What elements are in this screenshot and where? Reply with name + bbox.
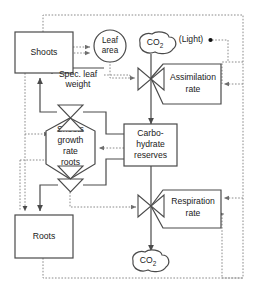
node-reserves-label-line3: reserves [134,150,167,160]
info-link-bus-to-assimilation [222,62,243,84]
node-roots[interactable]: Roots [15,215,73,258]
node-roots-label: Roots [33,231,55,241]
node-assimilation-label-line2: rate [186,84,201,94]
node-growth-label-line3: rate [63,146,78,156]
node-respiration-label-line2: rate [186,208,201,218]
info-link-lower-valve-to-respiration [70,192,136,207]
node-light-label: (Light) [179,34,203,44]
node-light[interactable]: (Light) [179,34,203,44]
diagram-canvas: Shoots Roots Leaf area CO2 CO2 (Light) S… [0,0,256,290]
node-splw-label-line2: weight [65,79,91,89]
node-spec-leaf-weight[interactable]: Spec. leaf weight [59,69,98,89]
node-splw-label-line1: Spec. leaf [59,69,98,79]
node-respiration-label-line1: Respiration [171,196,215,206]
node-assimilation-label-line1: Assimilation [170,72,216,82]
roots-growth-valve-bottom-icon[interactable] [58,166,83,192]
node-co2-source[interactable]: CO2 [140,32,176,54]
node-reserves-label-line1: Carbo- [137,128,163,138]
node-reserves-label-line2: hydrate [136,139,165,149]
node-shoots[interactable]: Shoots [15,32,73,73]
node-leaf-area-label-line2: area [102,46,119,55]
node-leaf-area[interactable]: Leaf area [94,30,126,62]
light-source-dot [208,38,212,42]
node-carbohydrate-reserves[interactable]: Carbo- hydrate reserves [124,124,177,166]
shoots-growth-valve-top-icon[interactable] [58,105,83,131]
model-diagram-svg: Shoots Roots Leaf area CO2 CO2 (Light) S… [0,0,256,290]
info-link-shoots-to-growth-rate [25,73,49,134]
node-co2-sink[interactable]: CO2 [133,250,169,272]
info-link-light-to-assimilation [208,38,228,62]
node-leaf-area-label-line1: Leaf [102,36,119,45]
node-shoots-label: Shoots [31,47,58,57]
info-link-bus-to-respiration [222,198,243,278]
node-growth-label-line2: growth [58,135,84,145]
